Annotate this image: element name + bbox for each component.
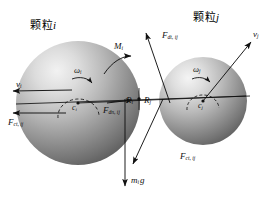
arrow-damping-tangential-force-j	[146, 33, 170, 103]
title-particle-j-text: 颗粒	[193, 11, 216, 24]
label-angular-velocity-j: ωj	[193, 65, 200, 75]
label-mg-suffix: g	[139, 175, 145, 185]
label-velocity-j: vj	[253, 30, 259, 40]
label-center-i-sub: i	[76, 107, 77, 112]
label-velocity-i: vi	[16, 80, 22, 90]
label-center-i: ci	[72, 104, 77, 113]
label-radius-i-sub: i	[132, 99, 134, 105]
label-velocity-j-sub: j	[257, 33, 259, 39]
label-contact-tangential-force-j: Fct, ij	[180, 152, 195, 162]
label-radius-i: Ri	[126, 96, 133, 106]
label-torque-i-sub: i	[122, 45, 124, 51]
title-particle-j-index: j	[216, 11, 220, 23]
title-particle-i-index: i	[53, 19, 57, 31]
label-center-j-sub: j	[202, 105, 203, 110]
label-torque-i-symbol: M	[114, 41, 122, 51]
title-particle-i-text: 颗粒	[30, 19, 53, 32]
label-fdt-sub: dt, ij	[168, 34, 178, 40]
label-radius-j-sub: j	[150, 99, 152, 105]
label-velocity-i-sub: i	[20, 83, 22, 89]
figure-canvas: 颗粒i 颗粒j vi vj Fct, ij Fdn, ij Fdt, ij Fc…	[0, 0, 274, 210]
label-omega-i-sub: i	[80, 69, 81, 75]
label-damping-normal-force: Fdn, ij	[103, 106, 120, 116]
label-torque-i: Mi	[114, 42, 123, 52]
label-radius-j: Rj	[144, 96, 151, 106]
label-fct-i-sub: ct, ij	[14, 121, 24, 127]
label-gravity-i: mig	[131, 176, 145, 186]
label-damping-tangential-force-j: Fdt, ij	[162, 31, 178, 41]
label-angular-velocity-i: ωi	[74, 66, 81, 76]
label-omega-j-sub: j	[199, 68, 200, 74]
title-particle-i: 颗粒i	[30, 20, 57, 31]
label-contact-tangential-force-i: Fct, ij	[8, 118, 23, 128]
label-fct-j-sub: ct, ij	[186, 155, 196, 161]
label-fdn-sub: dn, ij	[109, 109, 120, 115]
label-center-j: cj	[198, 102, 203, 111]
title-particle-j: 颗粒j	[193, 12, 220, 23]
